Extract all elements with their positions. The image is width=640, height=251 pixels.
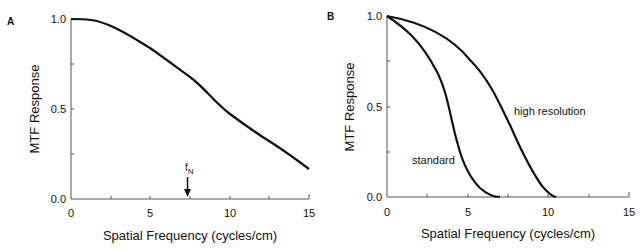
- xtick-10: 10: [542, 206, 554, 218]
- ytick-0-5: 0.5: [51, 103, 66, 115]
- panel-a: A 1.0 0.5 0.0 0 5 10 15 Spatial Frequenc…: [7, 13, 315, 243]
- xtick-5: 5: [465, 206, 471, 218]
- xtick-0: 0: [384, 206, 390, 218]
- standard-curve: [387, 16, 500, 197]
- standard-label: standard: [412, 154, 455, 166]
- panel-label-a: A: [7, 16, 14, 27]
- ytick-1-0: 1.0: [367, 10, 382, 22]
- mtf-curve: [71, 19, 309, 169]
- xtick-5: 5: [147, 207, 153, 219]
- panel-label-b: B: [327, 11, 334, 22]
- xtick-15: 15: [303, 207, 315, 219]
- ticks: [387, 61, 629, 197]
- y-axis-label: MTF Response: [342, 63, 357, 152]
- ytick-0-5: 0.5: [367, 101, 382, 113]
- ytick-1-0: 1.0: [51, 13, 66, 25]
- ticks: [71, 64, 309, 199]
- figure: A 1.0 0.5 0.0 0 5 10 15 Spatial Frequenc…: [0, 0, 640, 251]
- ytick-0-0: 0.0: [367, 191, 382, 203]
- panel-b: B 1.0 0.5 0.0 0 5 10 15 Spatial Frequenc…: [327, 10, 635, 241]
- x-axis-label: Spatial Frequency (cycles/cm): [103, 228, 277, 243]
- high-resolution-label: high resolution: [514, 105, 586, 117]
- fn-label: fN: [185, 162, 194, 176]
- xtick-10: 10: [224, 207, 236, 219]
- fn-arrow-icon: [184, 177, 191, 197]
- xtick-0: 0: [68, 207, 74, 219]
- y-axis-label: MTF Response: [27, 65, 42, 154]
- ytick-0-0: 0.0: [51, 193, 66, 205]
- xtick-15: 15: [623, 206, 635, 218]
- x-axis-label: Spatial Frequency (cycles/cm): [421, 226, 595, 241]
